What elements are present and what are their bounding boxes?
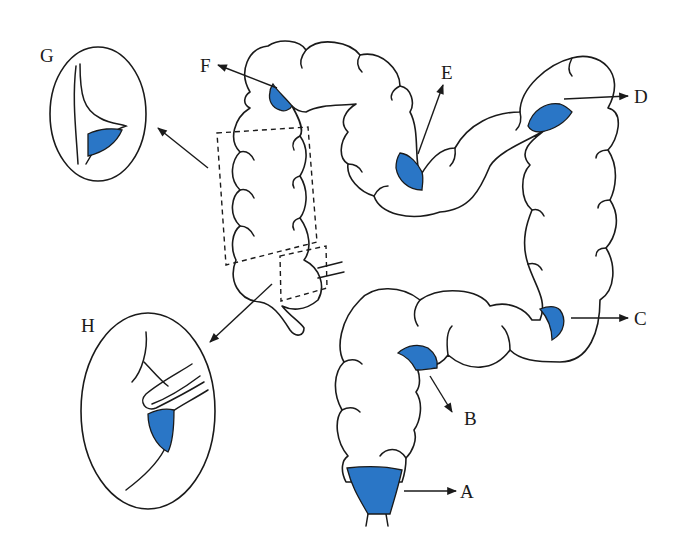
arrow-to-G	[158, 128, 208, 168]
label-E: E	[441, 62, 453, 83]
label-A: A	[460, 481, 474, 502]
label-F: F	[200, 55, 211, 76]
inset-H: H	[81, 284, 272, 509]
label-C: C	[634, 308, 647, 329]
colon-diagram: G H A B C D E F	[0, 0, 691, 554]
lesion-A	[347, 467, 402, 514]
arrow-E	[418, 85, 443, 154]
label-G: G	[40, 45, 54, 66]
label-H: H	[81, 315, 95, 336]
label-B: B	[464, 408, 477, 429]
inset-G: G	[40, 45, 208, 181]
arrow-B	[430, 376, 452, 412]
label-D: D	[634, 86, 648, 107]
